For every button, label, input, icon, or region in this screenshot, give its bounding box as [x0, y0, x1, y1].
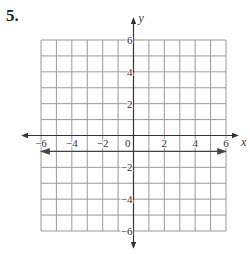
x-tick-label: −4	[66, 137, 78, 149]
x-tick-label: 2	[162, 137, 168, 149]
y-tick-label: 6	[127, 34, 133, 46]
y-tick-label: −2	[121, 161, 133, 173]
x-tick-label: −2	[97, 137, 109, 149]
axes: xy	[22, 11, 247, 248]
y-tick-label: 4	[127, 66, 133, 78]
y-tick-label: −6	[121, 225, 133, 237]
x-axis-label: x	[240, 135, 247, 149]
y-tick-label: 2	[127, 98, 133, 110]
coordinate-graph: xy −6−4−20246642−2−4−6	[0, 0, 250, 254]
x-tick-label: 0	[125, 137, 131, 149]
x-tick-label: 4	[192, 137, 198, 149]
y-tick-label: −4	[121, 193, 133, 205]
x-tick-label: −6	[35, 137, 47, 149]
y-axis-label: y	[138, 11, 145, 25]
x-tick-label: 6	[223, 137, 229, 149]
